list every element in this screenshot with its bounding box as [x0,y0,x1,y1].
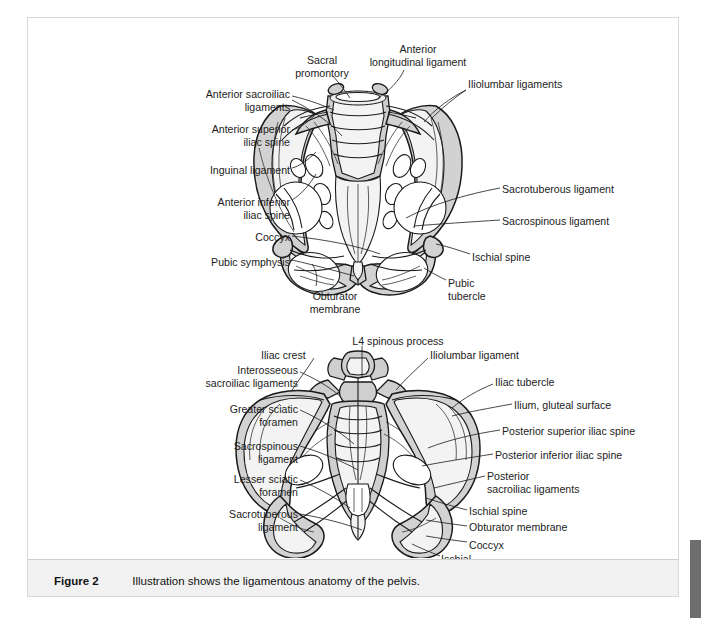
label-iliolumbar-ligaments: Iliolumbar ligaments [468,78,628,91]
label-pubic-symphysis: Pubic symphysis [150,256,290,269]
label-greater-sciatic-foramen: Greater sciatic foramen [154,403,298,428]
figure-caption: Figure 2 Illustration shows the ligament… [54,571,420,589]
label-interosseous-sacroiliac-ligaments: Interosseous sacroiliac ligaments [148,364,298,389]
label-ischial-spine-post: Ischial spine [469,505,589,518]
label-anterior-superior-iliac-spine: Anterior superior iliac spine [138,123,290,148]
label-anterior-inferior-iliac-spine: Anterior inferior iliac spine [138,196,290,221]
label-l4-spinous-process: L4 spinous process [334,335,462,348]
figure-page: .bone { fill:#d2d2d2; stroke:#1a1a1a; st… [0,0,706,618]
label-posterior-sacroiliac-ligaments: Posterior sacroiliac ligaments [487,470,637,495]
label-iliac-crest: Iliac crest [261,349,351,362]
label-sacrospinous-ligament-ant: Sacrospinous ligament [502,215,672,228]
label-sacrotuberous-ligament-ant: Sacrotuberous ligament [502,183,672,196]
label-iliolumbar-ligament: Iliolumbar ligament [430,349,570,362]
label-ilium-gluteal-surface: Ilium, gluteal surface [514,399,674,412]
label-pubic-tubercle: Pubic tubercle [448,277,528,302]
label-obturator-membrane: Obturator membrane [292,290,378,315]
label-coccyx-anterior: Coccyx [178,231,290,244]
label-coccyx-posterior: Coccyx [469,539,559,552]
figure-illustration-area: .bone { fill:#d2d2d2; stroke:#1a1a1a; st… [28,18,678,558]
figure-number: Figure 2 [54,575,99,587]
label-posterior-superior-iliac-spine: Posterior superior iliac spine [502,425,686,438]
label-sacrospinous-ligament-post: Sacrospinous ligament [168,440,298,465]
label-posterior-inferior-iliac-spine: Posterior inferior iliac spine [495,449,679,462]
figure-caption-text: Illustration shows the ligamentous anato… [132,575,420,587]
figure-caption-bar: Figure 2 Illustration shows the ligament… [28,559,678,596]
label-ischial-spine-ant: Ischial spine [472,251,612,264]
label-lesser-sciatic-foramen: Lesser sciatic foramen [168,473,298,498]
vertical-scrollbar[interactable] [690,540,701,618]
label-obturator-membrane-post: Obturator membrane [469,521,629,534]
label-anterior-sacroiliac-ligaments: Anterior sacroiliac ligaments [138,88,290,113]
label-inguinal-ligament: Inguinal ligament [138,164,290,177]
figure-panel: .bone { fill:#d2d2d2; stroke:#1a1a1a; st… [27,17,679,597]
label-anterior-longitudinal-ligament: Anterior longitudinal ligament [338,43,498,68]
label-sacrotuberous-ligament-post: Sacrotuberous ligament [160,508,298,533]
label-iliac-tubercle: Iliac tubercle [495,376,615,389]
